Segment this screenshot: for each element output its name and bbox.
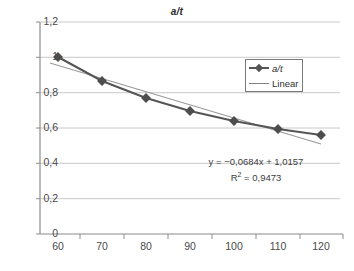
x-axis-label-80: 80 <box>126 240 166 252</box>
legend-line-marker-icon <box>249 63 269 73</box>
y-axis-label-1-2: 1,2 <box>28 15 58 27</box>
data-point-marker <box>185 106 195 116</box>
x-axis-label-120: 120 <box>301 240 341 252</box>
chart-container: a/t <box>0 0 354 271</box>
x-axis-label-60: 60 <box>38 240 78 252</box>
x-axis-ticks <box>80 234 343 239</box>
trendline-annotation: y = −0,0684x + 1,0157 R2 = 0,9473 <box>186 155 326 184</box>
y-axis-label-0-4: 0,4 <box>28 156 58 168</box>
r-squared-prefix: R <box>231 172 238 183</box>
legend-item-linear[interactable]: Linear <box>249 76 298 90</box>
x-axis-label-100: 100 <box>214 240 254 252</box>
x-axis-label-110: 110 <box>258 240 298 252</box>
data-point-marker <box>229 116 239 126</box>
y-axis-label-0-2: 0,2 <box>28 192 58 204</box>
r-squared-value: = 0,9473 <box>241 172 281 183</box>
legend-label-linear: Linear <box>272 78 298 89</box>
trendline-equation: y = −0,0684x + 1,0157 <box>186 155 326 168</box>
x-axis-label-70: 70 <box>82 240 122 252</box>
data-point-marker <box>141 93 151 103</box>
trendline-r-squared: R2 = 0,9473 <box>186 168 326 184</box>
chart-legend: a/t Linear <box>245 59 303 92</box>
y-axis-label-0-8: 0,8 <box>28 86 58 98</box>
y-axis-label-0: 0 <box>28 227 58 239</box>
axes <box>36 22 343 239</box>
legend-label-a-over-t: a/t <box>272 63 283 74</box>
y-axis-label-1-0: 1 <box>28 50 58 62</box>
legend-item-a-over-t[interactable]: a/t <box>249 61 283 75</box>
legend-line-icon <box>249 78 269 88</box>
data-point-marker <box>316 130 326 140</box>
x-axis-label-90: 90 <box>170 240 210 252</box>
y-axis-label-0-6: 0,6 <box>28 121 58 133</box>
